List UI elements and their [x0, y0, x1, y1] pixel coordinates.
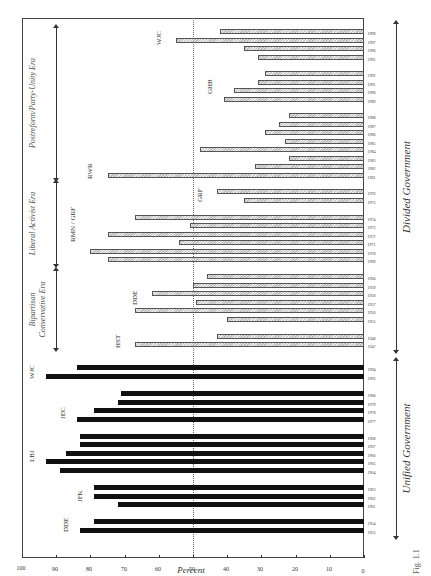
bar-1955 — [227, 318, 364, 323]
bar-1953 — [80, 529, 364, 534]
y-tick — [193, 555, 194, 558]
year-label: 1958 — [368, 293, 376, 298]
y-tick-label: 10 — [326, 566, 332, 572]
bar-1969 — [108, 258, 365, 263]
president-label: WJC — [155, 31, 163, 45]
government-period-label: Unified Government — [400, 361, 412, 536]
president-label: DDE — [62, 518, 70, 532]
y-tick-label: 90 — [52, 566, 58, 572]
y-tick-label: 80 — [86, 566, 92, 572]
bar-1995 — [258, 56, 364, 61]
bar-1971 — [179, 241, 364, 246]
year-label: 1978 — [368, 410, 376, 415]
president-label: HST — [114, 335, 122, 348]
y-tick-label: 20 — [292, 566, 298, 572]
president-label: GHB — [206, 79, 214, 94]
y-tick-label: 60 — [155, 566, 161, 572]
bar-1967 — [80, 443, 364, 448]
era-label: Bipartisan Conservative Era — [28, 271, 48, 348]
year-label: 1968 — [368, 436, 376, 441]
bar-1988 — [289, 114, 364, 119]
year-label: 1987 — [368, 124, 376, 129]
year-label: 1977 — [368, 419, 376, 424]
y-axis-label: Percent — [177, 565, 205, 575]
year-label: 1996 — [368, 48, 376, 53]
president-label: GRF — [196, 188, 204, 202]
bar-1992 — [265, 72, 364, 77]
bar-1996 — [244, 47, 364, 52]
era-label: Liberal Activist Era — [28, 183, 38, 264]
bar-1980 — [121, 392, 364, 397]
year-label: 1962 — [368, 496, 376, 501]
government-period-arrow — [396, 361, 397, 536]
y-tick — [227, 555, 228, 558]
bar-1982 — [255, 165, 364, 170]
era-label: Postreform/Party-Unity Era — [28, 28, 38, 178]
year-label: 1997 — [368, 40, 376, 45]
year-label: 1984 — [368, 149, 376, 154]
bar-1961 — [118, 503, 364, 508]
bar-1987 — [279, 123, 365, 128]
bar-1958 — [152, 292, 364, 297]
year-label: 1964 — [368, 470, 376, 475]
bar-1962 — [94, 495, 364, 500]
bar-1957 — [196, 301, 364, 306]
government-period-arrow — [396, 24, 397, 350]
year-label: 1973 — [368, 225, 376, 230]
y-tick-label: 40 — [223, 566, 229, 572]
year-label: 1979 — [368, 402, 376, 407]
year-label: 1959 — [368, 285, 376, 290]
bar-1973 — [190, 224, 364, 229]
bar-1976 — [217, 190, 364, 195]
y-tick — [296, 555, 297, 558]
year-label: 1988 — [368, 115, 376, 120]
era-span-arrow — [56, 28, 57, 178]
bar-1948 — [217, 335, 364, 340]
year-label: 1981 — [368, 175, 376, 180]
bar-1954 — [94, 520, 364, 525]
bar-1986 — [265, 131, 364, 136]
bar-1997 — [176, 39, 364, 44]
y-tick — [330, 555, 331, 558]
year-label: 1991 — [368, 82, 376, 87]
bar-1956 — [135, 309, 364, 314]
bar-1994 — [77, 366, 364, 371]
year-label: 1992 — [368, 73, 376, 78]
year-label: 1948 — [368, 336, 376, 341]
president-label: RWR — [86, 163, 94, 179]
year-label: 1995 — [368, 57, 376, 62]
bar-1975 — [244, 199, 364, 204]
y-tick — [90, 555, 91, 558]
year-label: 1986 — [368, 132, 376, 137]
bar-1985 — [285, 140, 364, 145]
year-label: 1963 — [368, 487, 376, 492]
y-tick — [125, 555, 126, 558]
bar-1972 — [108, 233, 365, 238]
year-label: 1974 — [368, 217, 376, 222]
bar-1947 — [135, 343, 364, 348]
bar-1968 — [80, 435, 364, 440]
year-label: 1966 — [368, 453, 376, 458]
bar-1964 — [60, 469, 364, 474]
bar-1993 — [46, 375, 364, 380]
y-tick-label: 0 — [362, 568, 365, 574]
year-label: 1956 — [368, 310, 376, 315]
era-span-arrow — [56, 183, 57, 264]
year-label: 1955 — [368, 319, 376, 324]
era-span-arrow — [56, 271, 57, 348]
president-label: LBJ — [28, 450, 36, 462]
year-label: 1972 — [368, 234, 376, 239]
bar-1978 — [94, 409, 364, 414]
bar-1965 — [46, 460, 364, 465]
year-label: 1961 — [368, 504, 376, 509]
year-label: 1983 — [368, 158, 376, 163]
bar-1983 — [289, 157, 364, 162]
year-label: 1989 — [368, 99, 376, 104]
year-label: 1982 — [368, 166, 376, 171]
y-tick-label: 70 — [121, 566, 127, 572]
year-label: 1960 — [368, 276, 376, 281]
year-label: 1993 — [368, 376, 376, 381]
year-label: 1947 — [368, 344, 376, 349]
president-label: WJC — [28, 365, 36, 379]
year-label: 1990 — [368, 90, 376, 95]
